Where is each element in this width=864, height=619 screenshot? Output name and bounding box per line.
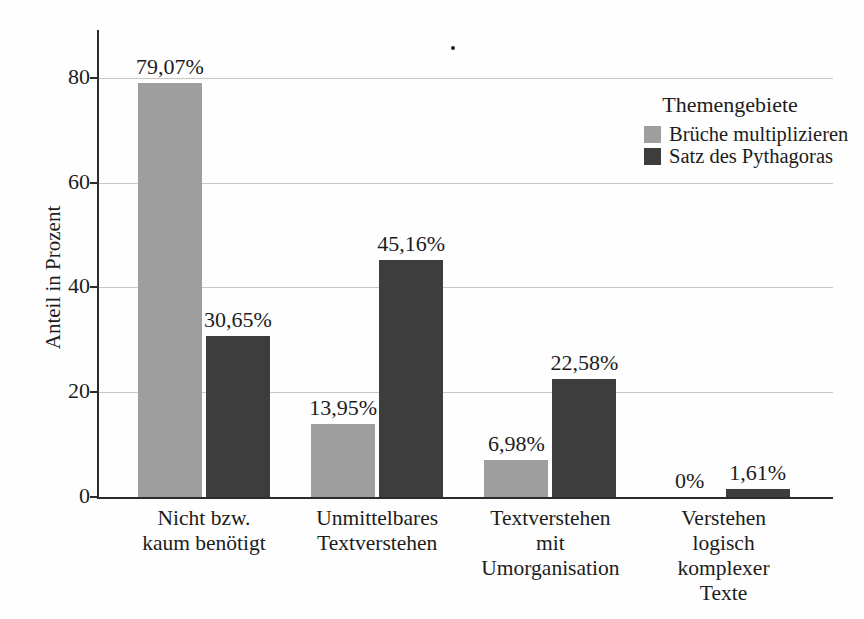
y-axis-line <box>97 30 99 499</box>
y-tick-mark-40 <box>90 286 97 288</box>
legend-swatch-icon-series-2 <box>644 148 661 165</box>
bar-series1-cat1 <box>138 83 202 497</box>
gridline-60 <box>99 183 833 184</box>
y-tick-mark-0 <box>90 496 97 498</box>
y-tick-label-0: 0 <box>30 483 90 509</box>
bar-series2-cat2 <box>379 260 443 497</box>
bar-series2-cat1 <box>206 336 270 497</box>
legend-title: Themengebiete <box>644 92 816 118</box>
y-tick-mark-20 <box>90 391 97 393</box>
bar-series2-cat3 <box>552 379 616 497</box>
bar-value-label-series2-cat3: 22,58% <box>519 350 649 376</box>
y-tick-label-80: 80 <box>30 64 90 90</box>
ink-dot-artifact <box>451 46 455 50</box>
bar-value-label-series2-cat2: 45,16% <box>346 231 476 257</box>
legend-item-series-2: Satz des Pythagoras <box>644 145 848 167</box>
legend-swatch-icon-series-1 <box>644 126 661 143</box>
legend-item-series-1: Brüche multiplizieren <box>644 123 848 145</box>
legend-item-label: Brüche multiplizieren <box>669 123 848 146</box>
gridline-40 <box>99 287 833 288</box>
bar-chart-figure: 02040608079,07%30,65%Nicht bzw. kaum ben… <box>0 0 864 619</box>
y-tick-mark-80 <box>90 77 97 79</box>
bar-series2-cat4 <box>726 489 790 497</box>
bar-series1-cat2 <box>311 424 375 497</box>
y-axis-title: Anteil in Prozent <box>41 128 66 428</box>
bar-value-label-series2-cat4: 1,61% <box>693 460 823 486</box>
y-tick-mark-60 <box>90 182 97 184</box>
legend-item-label: Satz des Pythagoras <box>669 145 833 168</box>
bar-value-label-series1-cat1: 79,07% <box>105 54 235 80</box>
bar-series1-cat3 <box>484 460 548 497</box>
x-axis-line <box>97 497 833 499</box>
x-category-label-4: Verstehen logisch komplexer Texte <box>618 506 830 606</box>
legend: Themengebiete Brüche multiplizieren Satz… <box>644 92 848 167</box>
bar-value-label-series2-cat1: 30,65% <box>173 307 303 333</box>
